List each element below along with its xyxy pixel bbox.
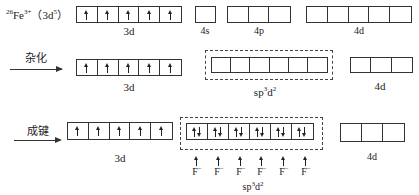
orbital-cell [160, 7, 181, 22]
orbital-cell [349, 7, 370, 22]
spin-up-arrow-icon [96, 126, 101, 136]
row2-sp3d2-label: sp3d2 [254, 85, 276, 98]
orbital-cell [208, 124, 229, 139]
row2-3d-label: 3d [124, 81, 135, 93]
spin-up-arrow-icon [147, 10, 152, 20]
config-close: ） [57, 9, 68, 21]
row2-sp3d2-orbitals [211, 57, 328, 73]
row2-4d-orbitals [350, 57, 413, 73]
orbital-cell [228, 7, 249, 22]
orbital-cell [292, 124, 313, 139]
row3-sp3d2-label: sp3d2 [243, 180, 264, 192]
orbital-cell [250, 58, 269, 72]
orbital-cell [289, 58, 308, 72]
spin-up-arrow-icon [126, 63, 131, 73]
row1-4p-label: 4p [254, 25, 264, 36]
orbital-cell [98, 7, 119, 22]
spin-down-arrow-icon [218, 127, 223, 137]
orbital-cell [119, 7, 140, 22]
row2-4d-label: 4d [375, 80, 386, 92]
orbital-cell [269, 7, 290, 22]
atomic-number: 26 [6, 8, 13, 16]
ligand-label: F− [236, 165, 246, 177]
row3-3d-label: 3d [115, 152, 126, 164]
ligand-label: F− [214, 165, 224, 177]
row3-4d-label: 4d [367, 151, 377, 162]
orbital-cell [130, 123, 151, 139]
orbital-cell [383, 124, 404, 141]
orbital-cell [249, 7, 270, 22]
orbital-cell [77, 60, 98, 75]
ligand-label: F− [279, 165, 289, 177]
orbital-cell [351, 58, 371, 72]
orbital-cell [271, 124, 292, 139]
orbital-cell [341, 124, 362, 141]
row2-3d-orbitals [76, 59, 182, 76]
ligand-label: F− [257, 165, 267, 177]
orbital-cell [110, 123, 131, 139]
row1-4s-orbital [195, 6, 216, 23]
bonding-label: 成键 [27, 122, 49, 138]
orbital-cell [187, 124, 208, 139]
orbital-cell [328, 7, 349, 22]
spin-up-arrow-icon [168, 10, 173, 20]
arrow-right-icon [56, 66, 63, 72]
hybridization-label: 杂化 [25, 49, 47, 65]
spin-up-arrow-icon [159, 126, 164, 136]
spin-down-arrow-icon [281, 127, 286, 137]
spin-down-arrow-icon [197, 127, 202, 137]
orbital-cell [250, 124, 271, 139]
orbital-cell [151, 123, 172, 139]
orbital-cell [119, 60, 140, 75]
spin-up-arrow-icon [147, 63, 152, 73]
row1-3d-orbitals [76, 6, 182, 23]
spin-up-arrow-icon [117, 126, 122, 136]
row3-sp3d2-orbitals [186, 123, 314, 140]
orbital-cell [392, 58, 412, 72]
orbital-cell [77, 7, 98, 22]
row1-4p-orbitals [227, 6, 291, 23]
ligand-label: F− [301, 165, 311, 177]
row3-4d-orbitals [340, 123, 405, 142]
orbital-cell [68, 123, 89, 139]
hybridization-arrow-line [10, 69, 62, 70]
orbital-cell [196, 7, 215, 22]
orbital-cell [307, 7, 328, 22]
row1-4d-orbitals [306, 6, 412, 23]
orbital-cell [270, 58, 289, 72]
orbital-cell [390, 7, 411, 22]
spin-up-arrow-icon [138, 126, 143, 136]
spin-up-arrow-icon [105, 63, 110, 73]
spin-up-arrow-icon [105, 10, 110, 20]
spin-up-arrow-icon [168, 63, 173, 73]
spin-down-arrow-icon [239, 127, 244, 137]
spin-up-arrow-icon [75, 126, 80, 136]
orbital-cell [371, 58, 391, 72]
bonding-arrow-line [14, 140, 60, 141]
spin-up-arrow-icon [126, 10, 131, 20]
fe-ion-label: 26Fe3+（3d5） [6, 6, 68, 22]
row1-3d-label: 3d [124, 25, 135, 37]
orbital-cell [362, 124, 383, 141]
orbital-cell [139, 7, 160, 22]
row1-4d-label: 4d [354, 25, 364, 36]
orbital-cell [229, 124, 250, 139]
row3-3d-orbitals [67, 122, 173, 140]
ligand-label: F− [192, 165, 202, 177]
config-open: （3d [31, 9, 53, 21]
row1-4s-label: 4s [201, 25, 210, 36]
spin-down-arrow-icon [302, 127, 307, 137]
orbital-cell [308, 58, 327, 72]
spin-up-arrow-icon [84, 10, 89, 20]
spin-up-arrow-icon [84, 63, 89, 73]
orbital-cell [369, 7, 390, 22]
element-symbol: Fe [13, 9, 24, 21]
orbital-cell [89, 123, 110, 139]
orbital-cell [212, 58, 231, 72]
orbital-cell [139, 60, 160, 75]
orbital-cell [160, 60, 181, 75]
orbital-cell [98, 60, 119, 75]
orbital-cell [231, 58, 250, 72]
spin-down-arrow-icon [260, 127, 265, 137]
arrow-right-icon [55, 137, 62, 143]
